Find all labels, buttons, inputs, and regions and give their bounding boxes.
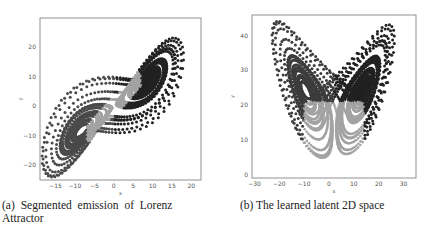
y-tick-label: 20: [240, 101, 248, 108]
y-tick-label: −20: [23, 161, 36, 168]
panel-b: −30−20−100102030010203040xy: [220, 0, 441, 200]
x-tick-label: 10: [350, 180, 358, 187]
x-tick-label: −30: [248, 180, 261, 187]
caption-a: (a) Segmented emission of Lorenz Attract…: [2, 199, 222, 225]
y-tick-label: −10: [23, 132, 36, 139]
x-axis-label: x: [119, 190, 122, 196]
x-axis-label: x: [333, 188, 336, 194]
y-tick-label: 40: [240, 32, 248, 39]
panel-a: −15−10−505101520−20−1001020xy: [0, 0, 220, 200]
y-tick-label: 10: [240, 136, 248, 143]
scatter-plot-lorenz: −15−10−505101520−20−1001020xy: [0, 0, 220, 200]
x-tick-label: 0: [327, 180, 331, 187]
x-tick-label: −5: [90, 182, 99, 189]
y-tick-label: 0: [32, 102, 36, 109]
x-tick-label: 20: [187, 182, 195, 189]
scatter-plot-latent: −30−20−100102030010203040xy: [220, 0, 441, 200]
data-points: [271, 20, 396, 159]
y-tick-label: 30: [240, 66, 248, 73]
data-points: [41, 37, 185, 179]
x-tick-label: −10: [69, 182, 82, 189]
caption-b: (b) The learned latent 2D space: [240, 199, 440, 212]
x-tick-label: 15: [168, 182, 176, 189]
x-tick-label: 0: [112, 182, 116, 189]
caption-a-line2: Attractor: [2, 212, 222, 225]
y-tick-label: 20: [28, 43, 36, 50]
x-tick-label: 20: [375, 180, 383, 187]
caption-b-text: (b) The learned latent 2D space: [240, 199, 440, 212]
x-tick-label: 30: [400, 180, 408, 187]
x-tick-label: −15: [49, 182, 62, 189]
y-axis-label: y: [17, 97, 24, 100]
x-tick-label: −20: [273, 180, 286, 187]
y-axis-label: y: [229, 95, 236, 98]
y-tick-label: 10: [28, 73, 36, 80]
caption-a-line1: (a) Segmented emission of Lorenz: [2, 199, 222, 212]
x-tick-label: −10: [298, 180, 311, 187]
x-tick-label: 5: [131, 182, 135, 189]
x-tick-label: 10: [149, 182, 157, 189]
y-tick-label: 0: [244, 171, 248, 178]
